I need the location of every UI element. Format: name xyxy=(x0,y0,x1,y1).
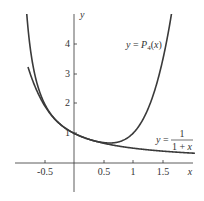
y-ticks xyxy=(74,44,77,133)
x-axis-label: x xyxy=(187,166,193,177)
y-tick-label: 4 xyxy=(65,38,70,49)
p4-curve xyxy=(28,0,177,143)
x-tick-label: -0.5 xyxy=(37,166,53,177)
chart: -0.5 0.5 1 1.5 x 4 3 2 1 y y = P4(x) y =… xyxy=(0,0,204,201)
y-tick-label: 2 xyxy=(65,97,70,108)
svg-text:1 + x: 1 + x xyxy=(172,141,193,152)
svg-text:y =: y = xyxy=(155,134,169,145)
svg-text:1: 1 xyxy=(180,128,185,139)
reciprocal-annotation: y = 1 1 + x xyxy=(155,128,193,152)
x-tick-label: 1 xyxy=(131,166,136,177)
p4-annotation: y = P4(x) xyxy=(125,39,162,52)
x-ticks xyxy=(45,160,163,163)
y-tick-label: 3 xyxy=(65,68,70,79)
x-tick-label: 0.5 xyxy=(98,166,111,177)
x-tick-label: 1.5 xyxy=(157,166,170,177)
y-axis-label: y xyxy=(79,9,85,20)
